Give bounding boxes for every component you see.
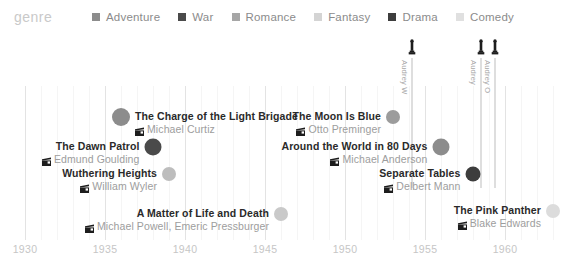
legend-swatch-icon	[232, 13, 240, 21]
oscar-statuette-icon[interactable]	[491, 39, 500, 57]
film-director-line: Delbert Mann	[379, 180, 460, 192]
gridline	[441, 86, 442, 240]
award-label: Audrey	[469, 60, 478, 85]
legend-item-label: Adventure	[106, 11, 160, 23]
clapperboard-icon	[296, 125, 305, 134]
film-director: Edmund Goulding	[54, 153, 140, 165]
film-label-group: A Matter of Life and DeathMichael Powell…	[85, 207, 269, 232]
axis-tick-label: 1935	[93, 243, 118, 255]
film-director-line: Michael Curtiz	[135, 123, 298, 135]
film-director: Michael Powell, Emeric Pressburger	[97, 220, 269, 232]
film-label-group: Wuthering HeightsWilliam Wyler	[62, 167, 157, 192]
film-data-point[interactable]	[145, 139, 162, 156]
legend-item-fantasy[interactable]: Fantasy	[314, 11, 370, 23]
legend-item-label: Comedy	[470, 11, 514, 23]
legend-item-label: War	[192, 11, 213, 23]
legend-item-label: Romance	[246, 11, 297, 23]
award-label: Audrey W	[400, 60, 409, 95]
legend-title: genre	[14, 9, 52, 25]
award-connector-line	[495, 58, 496, 188]
clapperboard-icon	[330, 155, 339, 164]
legend-swatch-icon	[314, 13, 322, 21]
axis-tick-label: 1930	[13, 243, 38, 255]
legend-item-romance[interactable]: Romance	[232, 11, 297, 23]
film-director-line: William Wyler	[62, 180, 157, 192]
film-director-line: Otto Preminger	[292, 123, 381, 135]
film-director-line: Blake Edwards	[454, 217, 541, 229]
x-axis: 1930193519401945195019551960	[0, 240, 570, 264]
legend-item-adventure[interactable]: Adventure	[92, 11, 160, 23]
film-label-group: Separate TablesDelbert Mann	[379, 167, 460, 192]
axis-tick-label: 1960	[493, 243, 518, 255]
axis-tick-label: 1940	[173, 243, 198, 255]
film-data-point[interactable]	[112, 108, 130, 126]
film-title: A Matter of Life and Death	[85, 207, 269, 219]
award-label: Audrey O	[483, 60, 492, 93]
clapperboard-icon	[135, 125, 144, 134]
film-data-point[interactable]	[546, 204, 560, 218]
film-data-point[interactable]	[162, 167, 176, 181]
axis-tick-label: 1945	[253, 243, 278, 255]
clapperboard-icon	[458, 219, 467, 228]
gridline	[25, 86, 26, 240]
clapperboard-icon	[42, 155, 51, 164]
film-director-line: Michael Anderson	[281, 153, 427, 165]
legend-swatch-icon	[388, 13, 396, 21]
award-connector-line	[481, 58, 482, 188]
axis-tick-label: 1955	[413, 243, 438, 255]
plot-area: Audrey WAudreyAudrey OThe Charge of the …	[0, 34, 570, 240]
film-title: Wuthering Heights	[62, 167, 157, 179]
film-data-point[interactable]	[274, 207, 288, 221]
film-title: The Moon Is Blue	[292, 110, 381, 122]
legend-item-label: Drama	[402, 11, 438, 23]
film-director: Delbert Mann	[396, 180, 460, 192]
film-data-point[interactable]	[466, 167, 481, 182]
film-director-line: Edmund Goulding	[42, 153, 140, 165]
film-director-line: Michael Powell, Emeric Pressburger	[85, 220, 269, 232]
film-director: Blake Edwards	[470, 217, 541, 229]
legend-swatch-icon	[456, 13, 464, 21]
film-title: Around the World in 80 Days	[281, 140, 427, 152]
oscar-statuette-icon[interactable]	[477, 39, 486, 57]
legend: genre AdventureWarRomanceFantasyDramaCom…	[0, 0, 570, 34]
film-data-point[interactable]	[433, 139, 450, 156]
film-data-point[interactable]	[386, 110, 400, 124]
legend-items: AdventureWarRomanceFantasyDramaComedy	[92, 11, 532, 23]
axis-tick-label: 1950	[333, 243, 358, 255]
clapperboard-icon	[85, 222, 94, 231]
film-director: William Wyler	[92, 180, 157, 192]
film-label-group: The Moon Is BlueOtto Preminger	[292, 110, 381, 135]
clapperboard-icon	[384, 182, 393, 191]
legend-item-comedy[interactable]: Comedy	[456, 11, 514, 23]
film-label-group: The Charge of the Light BrigadeMichael C…	[135, 110, 298, 135]
film-label-group: The Dawn PatrolEdmund Goulding	[42, 140, 140, 165]
genre-timeline-chart: genre AdventureWarRomanceFantasyDramaCom…	[0, 0, 570, 264]
film-title: The Charge of the Light Brigade	[135, 110, 298, 122]
film-title: The Dawn Patrol	[42, 140, 140, 152]
film-director: Otto Preminger	[308, 123, 381, 135]
legend-item-label: Fantasy	[328, 11, 370, 23]
film-label-group: Around the World in 80 DaysMichael Ander…	[281, 140, 427, 165]
legend-item-war[interactable]: War	[178, 11, 213, 23]
oscar-statuette-icon[interactable]	[408, 39, 417, 57]
film-title: The Pink Panther	[454, 204, 541, 216]
legend-item-drama[interactable]: Drama	[388, 11, 438, 23]
clapperboard-icon	[80, 182, 89, 191]
film-title: Separate Tables	[379, 167, 460, 179]
film-director: Michael Curtiz	[147, 123, 215, 135]
legend-swatch-icon	[92, 13, 100, 21]
film-label-group: The Pink PantherBlake Edwards	[454, 204, 541, 229]
film-director: Michael Anderson	[342, 153, 427, 165]
legend-swatch-icon	[178, 13, 186, 21]
